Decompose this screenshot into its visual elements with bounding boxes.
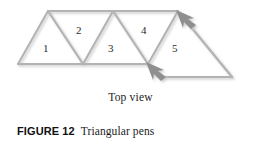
figure-caption: FIGURE 12Triangular pens [17,122,154,138]
pen-label-2: 2 [76,25,82,36]
pen-label-4: 4 [141,25,147,36]
arrow-lower-middle-icon [146,62,166,81]
pen-label-5: 5 [172,43,178,54]
figure-container: 1 2 3 4 5 Top view FIGURE 12Triangular p… [0,0,261,161]
edge-diagonal-1 [18,11,48,64]
edge-diagonal-4 [113,11,148,64]
top-view-caption: Top view [0,91,261,103]
edge-diagonal-5 [148,11,178,64]
pen-outlines [18,11,232,77]
figure-number-label: FIGURE 12 [17,125,75,137]
edge-diagonal-2 [48,11,83,64]
pen-label-1: 1 [43,43,49,54]
figure-title-label: Triangular pens [81,125,155,137]
edge-diagonal-3 [83,11,113,64]
pen-label-3: 3 [108,43,114,54]
arrow-upper-right-icon [176,10,196,29]
direction-arrows [146,10,196,81]
